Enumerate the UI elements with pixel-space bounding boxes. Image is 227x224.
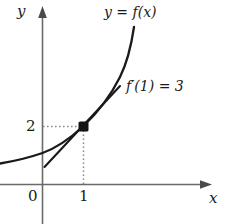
tangent-slope-label: f′(1) = 3 [126,79,184,93]
y-axis-label: y [17,4,25,19]
x-axis-label: x [209,191,217,206]
x-tick-label-1: 1 [79,189,89,204]
y-axis [38,6,47,224]
tangency-point-marker [79,122,89,132]
origin-tick-label: 0 [28,189,38,204]
curve-label: y = f(x) [104,5,157,19]
y-tick-label-2: 2 [26,119,36,134]
x-axis-arrow-icon [200,180,212,189]
derivative-diagram: y x 0 1 2 y = f(x) f′(1) = 3 [0,0,227,224]
y-axis-arrow-icon [38,6,47,18]
